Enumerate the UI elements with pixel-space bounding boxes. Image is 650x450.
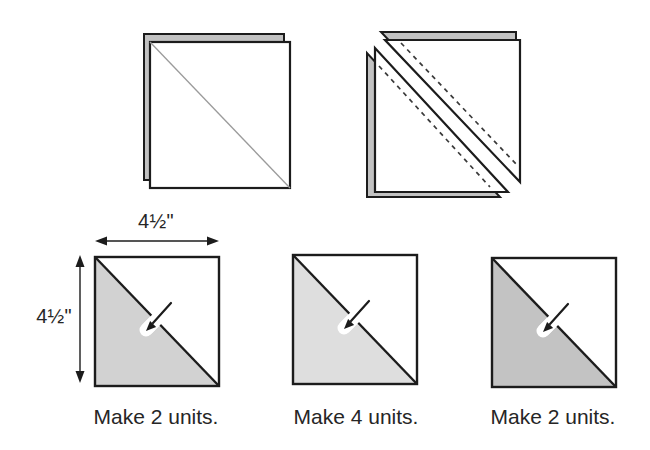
hst-unit-2: [291, 253, 419, 386]
stitched-cut-triangles-figure: [356, 24, 528, 204]
height-dimension-label: 4½": [8, 305, 72, 328]
width-dimension-label: 4½": [106, 210, 206, 233]
width-dimension-arrow-icon: [93, 234, 221, 248]
hst-unit-3: [490, 256, 618, 389]
unit-1-caption: Make 2 units.: [71, 405, 241, 429]
height-dimension-arrow-icon: [73, 253, 87, 385]
layered-squares-figure: [140, 30, 296, 192]
hst-unit-1: [93, 255, 221, 388]
quilt-hst-instructions-diagram: 4½" 4½" Make 2 units. Make 4 units. Make…: [0, 0, 650, 450]
unit-2-caption: Make 4 units.: [271, 405, 441, 429]
unit-3-caption: Make 2 units.: [468, 405, 638, 429]
